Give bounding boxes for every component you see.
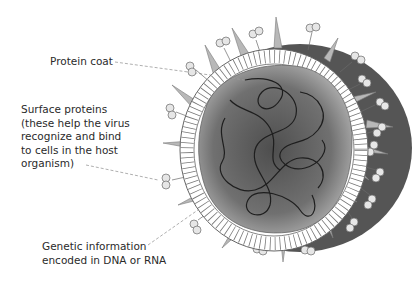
genetic-info-label: Genetic information encoded in DNA or RN… xyxy=(42,240,166,267)
surface-proteins-line-1: Surface proteins xyxy=(21,103,130,117)
surface-proteins-line-2: (these help the virus xyxy=(21,117,130,131)
virus-core xyxy=(199,65,352,233)
surface-proteins-label: Surface proteins (these help the virus r… xyxy=(21,103,130,171)
surface-proteins-line-5: organism) xyxy=(21,157,130,171)
surface-proteins-line-4: to cells in the host xyxy=(21,144,130,158)
surface-proteins-line-3: recognize and bind xyxy=(21,130,130,144)
protein-coat-label: Protein coat xyxy=(50,55,113,69)
genetic-info-line-1: Genetic information xyxy=(42,240,166,254)
genetic-info-line-2: encoded in DNA or RNA xyxy=(42,254,166,268)
